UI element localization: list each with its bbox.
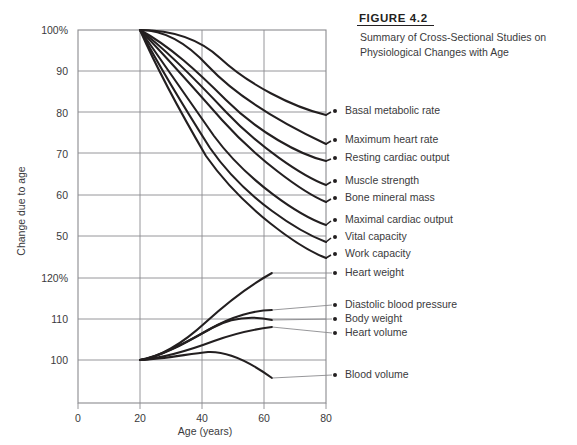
y-tick-label-120pct: 120% [22,272,68,284]
series-bullet-bone-mineral-mass [333,196,337,200]
series-bullet-heart-volume [333,331,337,335]
series-bullet-maximum-heart-rate [333,138,337,142]
x-axis-title: Age (years) [125,425,285,437]
series-label-blood-volume: Blood volume [345,368,409,380]
series-bullet-muscle-strength [333,179,337,183]
y-tick-label-110: 110 [22,313,68,325]
leader-lines [272,273,332,378]
series-label-vital-capacity: Vital capacity [345,230,407,242]
series-label-maximal-cardiac-output: Maximal cardiac output [345,213,453,225]
y-tick-label-100pct: 100% [22,24,68,36]
upper-connector-stubs [326,112,331,258]
x-tick-label-40: 40 [187,412,217,424]
y-tick-label-70: 70 [22,148,68,160]
curve-resting-cardiac-output [140,30,326,161]
series-bullet-diastolic-blood-pressure [333,303,337,307]
figure-caption-line2: Physiological Changes with Age [360,45,575,60]
figure-number: FIGURE 4.2 [357,12,434,26]
y-tick-label-90: 90 [22,65,68,77]
x-tick-label-80: 80 [311,412,341,424]
y-tick-label-100: 100 [22,354,68,366]
curve-body-weight [140,318,272,360]
series-label-resting-cardiac-output: Resting cardiac output [345,151,449,163]
series-bullet-vital-capacity [333,235,337,239]
x-tick-label-60: 60 [249,412,279,424]
x-tick-label-0: 0 [63,412,93,424]
figure-container: FIGURE 4.2 Summary of Cross-Sectional St… [0,0,577,445]
y-axis-title: Change due to age [15,146,27,276]
series-label-heart-volume: Heart volume [345,326,407,338]
series-label-bone-mineral-mass: Bone mineral mass [345,191,435,203]
curve-work-capacity [140,30,326,258]
y-tick-label-60: 60 [22,189,68,201]
curve-heart-weight [140,273,272,360]
series-bullet-maximal-cardiac-output [333,218,337,222]
series-bullet-basal-metabolic-rate [333,109,337,113]
x-tick-marks [78,403,326,409]
series-bullet-heart-weight [333,271,337,275]
x-tick-label-20: 20 [125,412,155,424]
figure-caption: Summary of Cross-Sectional Studies on Ph… [360,30,575,60]
series-label-muscle-strength: Muscle strength [345,174,419,186]
curve-basal-metabolic-rate [140,30,326,115]
series-label-work-capacity: Work capacity [345,247,411,259]
curve-blood-volume [140,352,272,378]
series-bullet-work-capacity [333,252,337,256]
y-tick-label-50: 50 [22,230,68,242]
series-label-basal-metabolic-rate: Basal metabolic rate [345,104,440,116]
series-bullet-body-weight [333,317,337,321]
series-label-heart-weight: Heart weight [345,266,404,278]
series-bullet-resting-cardiac-output [333,156,337,160]
series-bullet-blood-volume [333,373,337,377]
lower-series-curves [140,273,272,378]
curve-vital-capacity [140,30,326,242]
series-label-maximum-heart-rate: Maximum heart rate [345,133,438,145]
y-tick-label-80: 80 [22,107,68,119]
figure-caption-line1: Summary of Cross-Sectional Studies on [360,30,575,45]
chart-canvas [0,0,577,445]
upper-series-curves [140,30,326,258]
series-label-diastolic-blood-pressure: Diastolic blood pressure [345,298,457,310]
series-label-body-weight: Body weight [345,312,402,324]
